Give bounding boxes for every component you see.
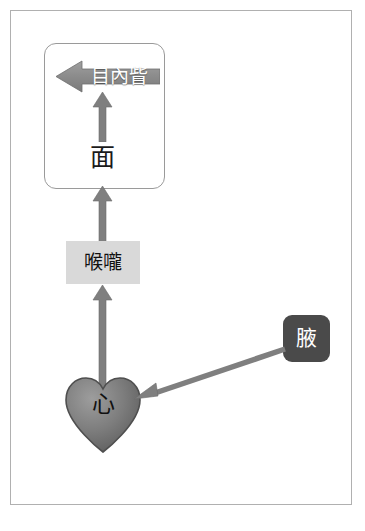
arrow-face-to-canthus [92, 92, 113, 142]
node-label-axilla: 腋 [296, 326, 317, 351]
node-label-face: 面 [78, 143, 126, 173]
node-box-throat: 喉嚨 [66, 241, 140, 284]
arrow-throat-to-face [92, 186, 113, 244]
node-label-canthus: 目內眥 [82, 63, 156, 90]
diagram-canvas: 目內眥 面 喉嚨 [0, 0, 365, 531]
node-box-axilla: 腋 [283, 315, 330, 362]
node-label-throat: 喉嚨 [84, 251, 122, 274]
arrow-axilla-to-heart [130, 345, 290, 407]
